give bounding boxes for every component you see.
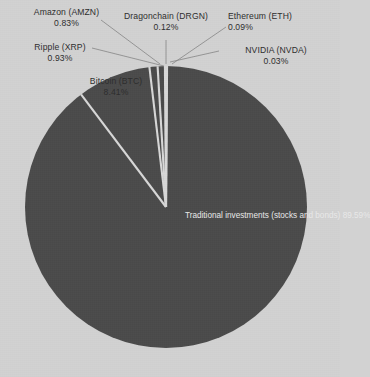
pie-label-bitcoin-percent: 8.41%	[74, 87, 158, 98]
pie-label-dragonchain: Dragonchain (DRGN) 0.12%	[116, 11, 216, 34]
pie-label-ethereum-name: Ethereum (ETH)	[228, 11, 333, 22]
pie-label-traditional-investments: Traditional investments (stocks and bond…	[185, 210, 325, 221]
pie-label-amazon: Amazon (AMZN) 0.83%	[14, 7, 119, 30]
pie-label-amazon-percent: 0.83%	[14, 18, 119, 29]
pie-label-amazon-name: Amazon (AMZN)	[14, 7, 119, 18]
leader-line-ripple	[92, 48, 164, 66]
separator-amazon-dragonchain	[165, 66, 166, 207]
pie-label-ripple-name: Ripple (XRP)	[20, 42, 100, 53]
pie-label-nvidia: NVIDIA (NVDA) 0.03%	[222, 45, 330, 68]
pie-label-traditional-investments-percent: 89.59%	[343, 211, 370, 220]
pie-label-nvidia-percent: 0.03%	[222, 56, 330, 67]
pie-label-dragonchain-percent: 0.12%	[116, 22, 216, 33]
pie-label-ethereum: Ethereum (ETH) 0.09%	[228, 11, 333, 34]
pie-label-nvidia-name: NVIDIA (NVDA)	[222, 45, 330, 56]
pie-label-bitcoin: Bitcoin (BTC) 8.41%	[74, 76, 158, 99]
pie-label-ripple: Ripple (XRP) 0.93%	[20, 42, 100, 65]
pie-label-dragonchain-name: Dragonchain (DRGN)	[116, 11, 216, 22]
pie-label-traditional-investments-name: Traditional investments	[185, 211, 269, 220]
leader-line-nvidia	[170, 51, 219, 62]
pie-label-ripple-percent: 0.93%	[20, 53, 100, 64]
pie-label-traditional-investments-name-line2: (stocks and bonds)	[271, 211, 340, 220]
pie-label-ethereum-percent: 0.09%	[228, 22, 333, 33]
pie-label-bitcoin-name: Bitcoin (BTC)	[74, 76, 158, 87]
